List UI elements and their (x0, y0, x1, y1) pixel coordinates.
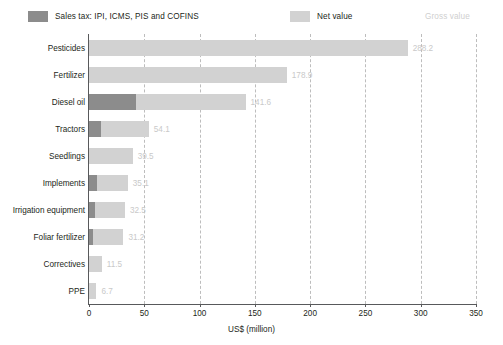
legend-item-sales-tax[interactable]: Sales tax: IPI, ICMS, PIS and COFINS (28, 9, 199, 23)
bar-value-label: 141.6 (251, 98, 272, 107)
y-axis-label-correctives: Correctives (44, 260, 85, 269)
x-tick-300 (421, 304, 422, 307)
x-axis-title: US$ (million) (0, 325, 503, 334)
bar-segment-net-value[interactable] (89, 67, 287, 83)
bar-row[interactable] (89, 175, 128, 191)
y-axis-label-fertilizer: Fertilizer (54, 71, 85, 80)
x-tick-150 (255, 304, 256, 307)
x-tick-350 (476, 304, 477, 307)
y-axis-label-pesticides: Pesticides (48, 44, 85, 53)
x-tick-50 (144, 304, 145, 307)
x-tick-label-250: 250 (359, 309, 373, 318)
bar-row[interactable] (89, 229, 123, 245)
bar-segment-net-value[interactable] (97, 175, 128, 191)
bar-row[interactable] (89, 148, 133, 164)
bar-value-label: 6.7 (101, 287, 112, 296)
bar-segment-net-value[interactable] (89, 283, 96, 299)
x-tick-label-150: 150 (248, 309, 262, 318)
bar-row[interactable] (89, 67, 287, 83)
legend-item-net-value[interactable]: Net value (290, 9, 353, 23)
bar-segment-net-value[interactable] (93, 229, 124, 245)
bar-value-label: 178.9 (292, 71, 313, 80)
bar-chart: Sales tax: IPI, ICMS, PIS and COFINS Net… (0, 0, 503, 345)
bar-segment-sales-tax[interactable] (89, 121, 101, 137)
bar-series-group: 288.2178.9141.654.139.535.132.531.211.56… (89, 34, 476, 304)
bar-segment-net-value[interactable] (89, 256, 102, 272)
bar-row[interactable] (89, 94, 246, 110)
chart-legend: Sales tax: IPI, ICMS, PIS and COFINS Net… (0, 0, 503, 28)
bar-segment-net-value[interactable] (89, 148, 133, 164)
bar-value-label: 54.1 (154, 125, 170, 134)
bar-value-label: 35.1 (133, 179, 149, 188)
x-tick-label-300: 300 (414, 309, 428, 318)
bar-segment-sales-tax[interactable] (89, 94, 136, 110)
x-tick-100 (200, 304, 201, 307)
bar-row[interactable] (89, 283, 96, 299)
bar-row[interactable] (89, 40, 408, 56)
x-axis-line (88, 304, 476, 305)
y-axis-label-ppe: PPE (69, 287, 85, 296)
y-axis-label-tractors: Tractors (55, 125, 85, 134)
x-tick-0 (89, 304, 90, 307)
legend-label-sales-tax: Sales tax: IPI, ICMS, PIS and COFINS (55, 12, 199, 21)
y-axis-label-seedlings: Seedlings (49, 152, 85, 161)
plot-area: 288.2178.9141.654.139.535.132.531.211.56… (89, 34, 476, 304)
bar-segment-net-value[interactable] (101, 121, 149, 137)
y-axis-label-irrigation-equipment: Irrigation equipment (13, 206, 85, 215)
bar-row[interactable] (89, 256, 102, 272)
x-tick-label-100: 100 (193, 309, 207, 318)
x-tick-label-0: 0 (87, 309, 92, 318)
legend-label-gross-value: Gross value (425, 12, 470, 21)
bar-value-label: 31.2 (128, 233, 144, 242)
bar-value-label: 32.5 (130, 206, 146, 215)
legend-label-net-value: Net value (317, 12, 353, 21)
x-tick-label-50: 50 (140, 309, 149, 318)
bar-value-label: 11.5 (107, 260, 122, 269)
bar-segment-sales-tax[interactable] (89, 175, 97, 191)
legend-item-gross-value[interactable]: Gross value (425, 9, 470, 23)
bar-segment-net-value[interactable] (136, 94, 246, 110)
gridline-350 (476, 34, 477, 304)
legend-swatch-sales-tax (28, 11, 48, 22)
bar-segment-net-value[interactable] (95, 202, 125, 218)
legend-swatch-net-value (290, 11, 310, 22)
bar-value-label: 288.2 (413, 44, 434, 53)
bar-row[interactable] (89, 202, 125, 218)
y-axis-labels: PesticidesFertilizerDiesel oilTractorsSe… (0, 34, 85, 304)
x-tick-label-200: 200 (303, 309, 317, 318)
y-axis-label-implements: Implements (43, 179, 85, 188)
bar-segment-net-value[interactable] (89, 40, 408, 56)
y-axis-label-diesel-oil: Diesel oil (52, 98, 85, 107)
bar-value-label: 39.5 (138, 152, 154, 161)
x-tick-label-350: 350 (469, 309, 483, 318)
x-tick-200 (310, 304, 311, 307)
x-tick-250 (365, 304, 366, 307)
bar-row[interactable] (89, 121, 149, 137)
y-axis-label-foliar-fertilizer: Foliar fertilizer (34, 233, 85, 242)
